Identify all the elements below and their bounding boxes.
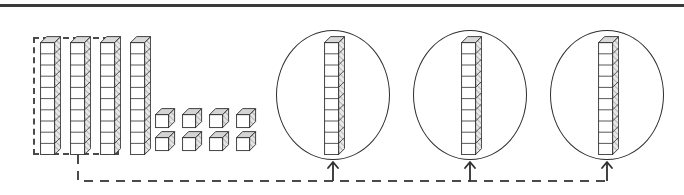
source-unit-4 (236, 108, 255, 127)
group-1-arrow-head (328, 162, 338, 168)
group-2-rod (461, 36, 481, 155)
source-unit-1 (155, 108, 174, 127)
source-unit-6 (182, 131, 201, 150)
source-unit-5 (155, 131, 174, 150)
source-unit-3 (209, 108, 228, 127)
group-3-arrow-head (602, 162, 612, 168)
top-rule-divider (0, 4, 684, 7)
group-2-arrow-head (465, 162, 475, 168)
group-3-rod (598, 36, 618, 155)
source-unit-7 (209, 131, 228, 150)
source-unit-2 (182, 108, 201, 127)
source-rod-4 (130, 36, 150, 155)
source-rod-3 (100, 36, 120, 155)
group-1-rod (324, 36, 344, 155)
source-rod-1 (40, 36, 60, 155)
base-ten-division-figure (0, 0, 684, 195)
source-rod-2 (70, 36, 90, 155)
source-unit-8 (236, 131, 255, 150)
